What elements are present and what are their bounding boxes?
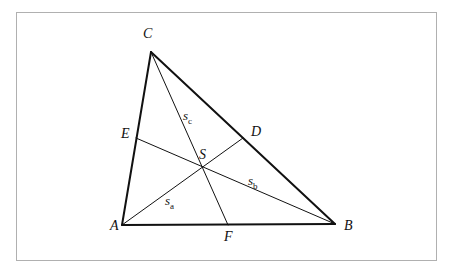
median-label-s-b: sb xyxy=(248,173,258,191)
median-lines xyxy=(122,52,335,225)
point-label-d: D xyxy=(250,124,261,139)
median-labels: sasbsc xyxy=(165,108,258,211)
point-label-b: B xyxy=(344,218,353,233)
point-label-f: F xyxy=(223,229,233,244)
vertex-labels: ABCDEFS xyxy=(109,26,353,244)
point-label-s: S xyxy=(199,147,206,162)
point-label-e: E xyxy=(120,126,130,141)
point-label-a: A xyxy=(109,218,119,233)
point-label-c: C xyxy=(143,26,153,41)
side-AB xyxy=(122,224,335,225)
geometry-figure: ABCDEFS sasbsc xyxy=(0,0,454,273)
median-AD xyxy=(122,138,243,225)
median-label-s-c: sc xyxy=(183,108,192,126)
diagram-canvas: ABCDEFS sasbsc xyxy=(0,0,454,273)
median-BE xyxy=(136,138,335,224)
figure-frame xyxy=(17,13,437,261)
median-label-s-a: sa xyxy=(165,193,174,211)
median-CF xyxy=(151,52,228,225)
triangle-sides xyxy=(122,52,335,225)
